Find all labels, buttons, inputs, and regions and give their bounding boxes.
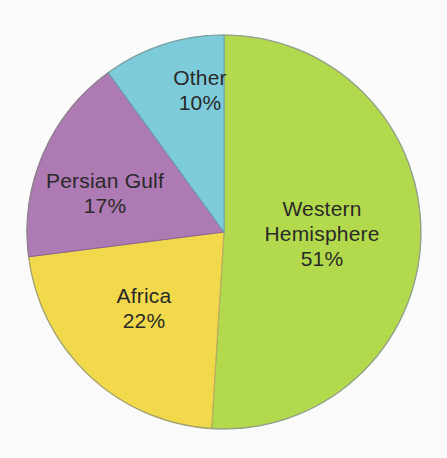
slice-label-western-hemisphere: Western Hemisphere 51% xyxy=(239,196,405,271)
slice-label-other-name: Other xyxy=(145,65,255,90)
slice-label-africa-name: Africa xyxy=(80,283,208,308)
slice-value-other: 10% xyxy=(145,90,255,115)
slice-value-persian-gulf: 17% xyxy=(22,193,188,218)
slice-value-africa: 22% xyxy=(80,308,208,333)
slice-label-other: Other 10% xyxy=(145,65,255,115)
slice-label-africa: Africa 22% xyxy=(80,283,208,333)
slice-label-persian-gulf: Persian Gulf 17% xyxy=(22,168,188,218)
slice-label-persian-gulf-name: Persian Gulf xyxy=(22,168,188,193)
pie-chart: Western Hemisphere 51% Africa 22% Persia… xyxy=(0,0,447,458)
slice-value-western-hemisphere: 51% xyxy=(239,246,405,271)
slice-label-western-hemisphere-line1: Western xyxy=(239,196,405,221)
slice-label-western-hemisphere-line2: Hemisphere xyxy=(239,221,405,246)
